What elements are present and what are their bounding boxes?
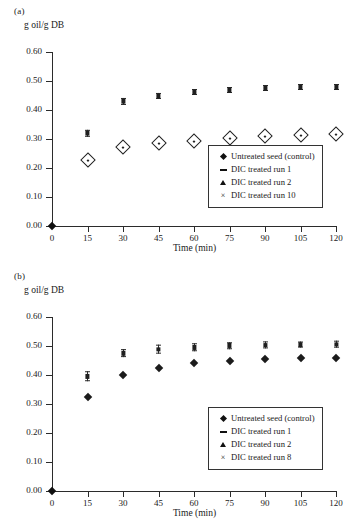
y-axis-tick	[46, 433, 52, 434]
legend-row: DIC treated run 2	[215, 438, 315, 451]
data-point-control	[257, 128, 273, 144]
data-point-control	[190, 358, 198, 366]
y-axis-tick-label: 0.60	[2, 46, 42, 56]
x-axis-tick-label: 45	[144, 498, 174, 508]
legend-label: DIC treated run 8	[231, 453, 291, 462]
legend-row: Untreated seed (control)	[215, 412, 315, 425]
x-axis-tick-label: 30	[108, 498, 138, 508]
y-axis-tick	[46, 139, 52, 140]
data-point-control	[154, 364, 162, 372]
data-point-cluster-dic	[263, 85, 268, 91]
y-axis-tick-label: 0.30	[2, 398, 42, 408]
y-axis-tick	[46, 375, 52, 376]
x-axis-title-text-b: Time (min)	[137, 508, 216, 518]
x-axis-title-a: Time (min)	[0, 243, 353, 253]
x-axis-tick	[301, 227, 302, 232]
data-point-cluster-dic	[298, 84, 303, 90]
plot-area-b: 0.000.100.200.300.400.500.60015304560759…	[0, 265, 353, 529]
y-axis-tick-label: 0.20	[2, 162, 42, 172]
diamond-icon	[215, 152, 231, 161]
diamond-icon	[215, 414, 231, 423]
x-axis-tick	[230, 492, 231, 497]
x-axis-tick-label: 75	[215, 498, 245, 508]
y-axis-tick	[46, 110, 52, 111]
x-axis-tick-label: 45	[144, 233, 174, 243]
dash-icon	[215, 165, 231, 174]
y-axis-tick	[46, 81, 52, 82]
triangle-icon	[215, 178, 231, 187]
x-axis-tick-label: 120	[321, 233, 351, 243]
x-axis-tick-label: 0	[37, 233, 67, 243]
x-axis-tick-label: 105	[286, 498, 316, 508]
data-point-control	[119, 371, 127, 379]
x-axis-tick-label: 60	[179, 498, 209, 508]
x-axis-tick-label: 15	[73, 233, 103, 243]
legend-label: DIC treated run 10	[231, 191, 296, 200]
chart-legend-a: Untreated seed (control)DIC treated run …	[208, 145, 323, 208]
x-axis-tick-label: 0	[37, 498, 67, 508]
data-point-cluster-dic	[298, 341, 303, 348]
data-point-control	[225, 356, 233, 364]
data-point-control	[293, 127, 309, 143]
legend-row: ×DIC treated run 10	[215, 189, 315, 202]
x-axis-tick	[194, 492, 195, 497]
data-point-cluster-dic	[334, 341, 339, 348]
x-axis-tick	[336, 227, 337, 232]
x-axis-tick	[194, 227, 195, 232]
data-point-cluster-dic	[227, 87, 232, 93]
data-point-cluster-dic	[85, 130, 90, 136]
dash-icon	[215, 427, 231, 436]
y-axis-tick	[46, 226, 52, 227]
y-axis-tick	[46, 168, 52, 169]
data-point-control	[261, 355, 269, 363]
chart-legend-b: Untreated seed (control)DIC treated run …	[208, 407, 323, 470]
cross-icon: ×	[215, 191, 231, 200]
legend-label: DIC treated run 1	[231, 427, 291, 436]
data-point-cluster-dic	[121, 98, 126, 104]
y-axis-tick-label: 0.00	[2, 485, 42, 495]
triangle-icon	[215, 440, 231, 449]
y-axis-tick-label: 0.50	[2, 75, 42, 85]
data-point-control	[80, 152, 96, 168]
x-axis-tick	[88, 227, 89, 232]
legend-row: DIC treated run 1	[215, 163, 315, 176]
x-axis-tick	[230, 227, 231, 232]
x-axis-tick-label: 15	[73, 498, 103, 508]
data-point-cluster-dic	[121, 349, 126, 357]
data-point-control	[115, 139, 131, 155]
x-axis-tick	[265, 492, 266, 497]
y-axis-tick	[46, 346, 52, 347]
y-axis-line-b	[52, 317, 53, 492]
x-axis-tick-label: 90	[250, 233, 280, 243]
chart-panel-a: (a) g oil/g DB 0.000.100.200.300.400.500…	[0, 0, 353, 264]
data-point-cluster-dic	[156, 93, 161, 99]
x-axis-tick-label: 90	[250, 498, 280, 508]
data-point-control	[151, 135, 167, 151]
y-axis-tick	[46, 491, 52, 492]
x-axis-tick-label: 30	[108, 233, 138, 243]
x-axis-tick	[123, 227, 124, 232]
legend-label: DIC treated run 1	[231, 165, 291, 174]
figure-page: (a) g oil/g DB 0.000.100.200.300.400.500…	[0, 0, 353, 529]
y-axis-tick	[46, 462, 52, 463]
y-axis-tick-label: 0.20	[2, 427, 42, 437]
data-point-cluster-dic	[334, 84, 339, 90]
y-axis-tick-label: 0.40	[2, 104, 42, 114]
data-point-cluster-dic	[263, 341, 268, 348]
x-axis-tick-label: 75	[215, 233, 245, 243]
x-axis-tick	[336, 492, 337, 497]
y-axis-tick	[46, 52, 52, 53]
data-point-control	[332, 353, 340, 361]
x-axis-tick	[265, 227, 266, 232]
legend-label: DIC treated run 2	[231, 440, 291, 449]
y-axis-tick-label: 0.50	[2, 340, 42, 350]
legend-label: Untreated seed (control)	[231, 152, 315, 161]
legend-row: DIC treated run 2	[215, 176, 315, 189]
x-axis-tick-label: 60	[179, 233, 209, 243]
plot-area-a: 0.000.100.200.300.400.500.60015304560759…	[0, 0, 353, 264]
legend-row: DIC treated run 1	[215, 425, 315, 438]
data-point-control	[83, 393, 91, 401]
y-axis-tick-label: 0.60	[2, 311, 42, 321]
data-point-control	[222, 130, 238, 146]
y-axis-tick	[46, 197, 52, 198]
